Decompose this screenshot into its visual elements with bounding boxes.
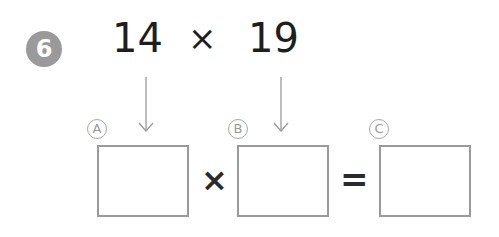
operand-2: 19: [248, 18, 299, 58]
box-label-b: B: [228, 119, 248, 139]
problem-number-badge: 6: [26, 31, 62, 67]
box-label-c: C: [369, 119, 389, 139]
times-sign: ×: [201, 164, 228, 196]
box-label-a: A: [87, 119, 107, 139]
operator-times-top: ×: [188, 21, 217, 55]
answer-box-a[interactable]: [97, 145, 189, 217]
operand-1: 14: [112, 18, 163, 58]
arrow-down-icon: [136, 77, 156, 133]
answer-box-c[interactable]: [379, 145, 471, 217]
problem-number: 6: [36, 35, 53, 63]
equals-sign: =: [340, 162, 369, 196]
arrow-down-icon: [271, 77, 291, 133]
answer-box-b[interactable]: [237, 145, 329, 217]
